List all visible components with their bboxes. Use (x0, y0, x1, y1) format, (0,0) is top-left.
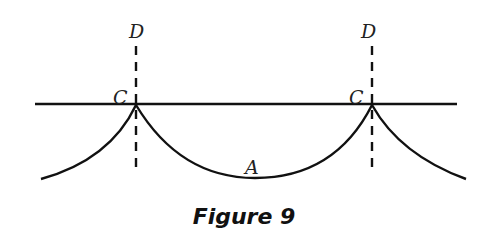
curve-left-branch (41, 105, 136, 179)
curve-right-branch (372, 105, 466, 179)
figure-caption: Figure 9 (0, 204, 488, 229)
label-d-left: D (129, 22, 144, 41)
label-a: A (245, 158, 259, 177)
figure-9-diagram: D D C C A Figure 9 (0, 0, 488, 249)
label-c-left: C (113, 88, 128, 107)
label-c-right: C (349, 88, 364, 107)
label-d-right: D (361, 22, 376, 41)
